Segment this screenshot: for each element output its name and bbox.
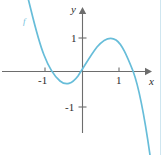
y-tick-label-pos1: 1 [71, 32, 77, 44]
x-axis [2, 68, 152, 76]
x-tick-label-pos1: 1 [116, 74, 122, 86]
function-graph-figure: f -1 1 1 -1 x y [0, 0, 164, 155]
y-tick-label-neg1: -1 [65, 101, 74, 113]
y-axis-arrow-icon [79, 7, 86, 14]
y-axis-label: y [70, 3, 76, 15]
curve-label-f: f [23, 16, 27, 26]
x-axis-label: x [148, 75, 154, 87]
graph-canvas: f -1 1 1 -1 x y [0, 0, 164, 155]
x-tick-label-neg1: -1 [38, 74, 47, 86]
